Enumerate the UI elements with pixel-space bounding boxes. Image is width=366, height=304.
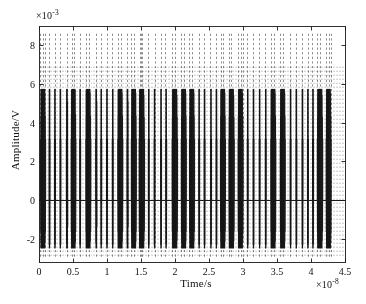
y-tick-label: 4	[14, 117, 35, 128]
y-exponent-power: -3	[52, 8, 59, 17]
x-tick-label: 1.5	[135, 266, 148, 277]
x-tick-label: 4.5	[339, 266, 352, 277]
x-tick-label: 2	[173, 266, 178, 277]
figure-container: ×10-3 ×10-8 Time/s Amplitude/V 00.511.52…	[0, 0, 366, 304]
y-tick-label: -2	[14, 233, 35, 244]
x-tick-label: 0	[37, 266, 42, 277]
x-tick-label: 3.5	[271, 266, 284, 277]
y-tick-label: 0	[14, 195, 35, 206]
y-tick-label: 2	[14, 156, 35, 167]
x-tick-label: 4	[309, 266, 314, 277]
x-tick-label: 2.5	[203, 266, 216, 277]
x-tick-label: 0.5	[67, 266, 80, 277]
x-axis-title: Time/s	[0, 277, 366, 289]
signal-plot-canvas	[0, 0, 366, 304]
x-tick-label: 1	[105, 266, 110, 277]
x-tick-label: 3	[241, 266, 246, 277]
y-axis-title: Amplitude/V	[9, 75, 21, 205]
y-tick-label: 6	[14, 79, 35, 90]
y-axis-exponent-label: ×10-3	[36, 8, 59, 21]
y-tick-label: 8	[14, 40, 35, 51]
y-exponent-base: ×10	[36, 10, 52, 21]
